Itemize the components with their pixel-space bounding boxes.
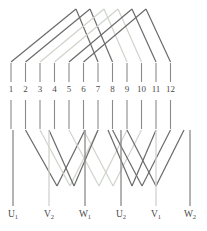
output-label-base: U <box>116 209 123 219</box>
output-label-V1: V1 <box>145 209 167 220</box>
top-arc-right-4 <box>132 9 156 62</box>
terminal-label-12: 12 <box>163 84 179 94</box>
bottom-route-down-1 <box>40 130 70 186</box>
top-arc-left-4 <box>69 9 132 62</box>
bottom-route-down-5 <box>127 130 156 186</box>
output-label-subscript: 2 <box>123 213 126 220</box>
output-label-U2: U2 <box>110 209 132 220</box>
output-label-subscript: 1 <box>88 213 91 220</box>
diagram-canvas <box>0 0 207 231</box>
output-label-subscript: 2 <box>193 213 196 220</box>
top-connection-group <box>11 9 171 62</box>
top-arc-left-1 <box>26 9 91 62</box>
output-label-W1: W1 <box>74 209 96 220</box>
top-arc-right-5 <box>146 9 171 62</box>
output-label-base: V <box>151 209 158 219</box>
upper-terminal-ticks <box>11 63 171 82</box>
bottom-route-up-5 <box>156 130 184 186</box>
output-label-subscript: 2 <box>51 213 54 220</box>
output-label-subscript: 1 <box>158 213 161 220</box>
output-label-base: W <box>79 209 88 219</box>
output-label-base: U <box>8 209 15 219</box>
output-label-base: W <box>184 209 193 219</box>
bottom-route-up-7 <box>108 130 132 186</box>
output-label-U1: U1 <box>2 209 24 220</box>
output-label-W2: W2 <box>179 209 201 220</box>
braid-diagram: 123456789101112 U1V2W1U2V1W2 <box>0 0 207 231</box>
top-arc-left-0 <box>11 9 76 62</box>
bottom-route-up-2 <box>99 130 127 186</box>
output-stem-group <box>13 130 190 206</box>
bottom-route-down-7 <box>132 130 156 186</box>
output-label-V2: V2 <box>38 209 60 220</box>
lower-terminal-ticks <box>11 100 171 129</box>
top-arc-right-3 <box>118 9 142 62</box>
output-label-base: V <box>44 209 51 219</box>
bottom-route-down-3 <box>84 130 114 186</box>
output-label-subscript: 1 <box>15 213 18 220</box>
